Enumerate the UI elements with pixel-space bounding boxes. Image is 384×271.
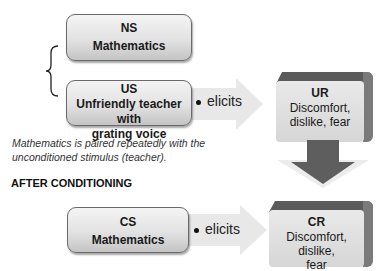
ns-label: NS (67, 21, 191, 36)
bullet-icon (194, 228, 199, 233)
cr-line1: Discomfort, dislike, (269, 230, 364, 258)
ur-line1: Discomfort, (276, 101, 364, 115)
cs-text: Mathematics (68, 233, 188, 248)
cs-label: CS (68, 215, 188, 230)
brace-icon (44, 44, 66, 98)
ns-box: NS Mathematics (66, 14, 192, 61)
ur-line2: dislike, fear (276, 115, 364, 129)
us-line1: Unfriendly teacher with (67, 97, 191, 127)
cr-box: CR Discomfort, dislike, fear (269, 201, 373, 267)
elicits-label-after: elicits (194, 221, 240, 237)
down-arrow (277, 140, 369, 188)
us-label: US (67, 82, 191, 97)
cs-box: CS Mathematics (67, 207, 189, 253)
bullet-icon (196, 100, 201, 105)
cr-line2: fear (269, 258, 364, 271)
elicits-label-before: elicits (196, 93, 242, 109)
ur-box: UR Discomfort, dislike, fear (276, 72, 373, 142)
us-box: US Unfriendly teacher with grating voice (66, 80, 192, 126)
ur-label: UR (276, 86, 364, 101)
after-conditioning-heading: AFTER CONDITIONING (11, 177, 132, 189)
ns-text: Mathematics (67, 39, 191, 54)
cr-label: CR (269, 215, 364, 230)
pairing-note: Mathematics is paired repeatedly with th… (12, 136, 205, 164)
